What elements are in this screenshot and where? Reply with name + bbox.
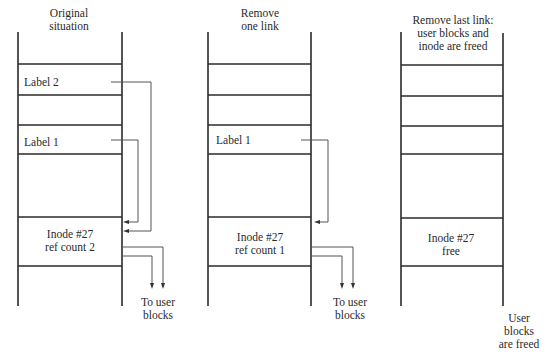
panel-remove-last-link: Remove last link: user blocks and inode … bbox=[401, 14, 540, 350]
block-pointer-arrow bbox=[122, 256, 152, 284]
panel-2-footer-line-1: To user bbox=[333, 296, 367, 308]
panel-1-footer-line-1: To user bbox=[141, 296, 175, 308]
link-arrow-label-2-to-inode bbox=[111, 82, 151, 231]
panel-2-footer-line-2: blocks bbox=[335, 309, 366, 321]
panel-remove-one-link: Remove one link Label 1 Inode #27 ref co… bbox=[208, 7, 367, 321]
panel-2-heading-line-1: Remove bbox=[241, 7, 279, 19]
arrowhead-icon bbox=[123, 220, 129, 224]
link-arrow-label-1-to-inode bbox=[301, 140, 328, 222]
arrowhead-icon bbox=[340, 283, 344, 289]
panel-3-footer-line-1: User bbox=[508, 312, 530, 324]
inode-27-title: Inode #27 bbox=[428, 232, 475, 244]
block-pointer-arrow bbox=[311, 256, 342, 284]
panel-1-heading-line-1: Original bbox=[50, 7, 88, 20]
inode-27-ref-count: ref count 1 bbox=[235, 244, 285, 256]
inode-27-ref-count: ref count 2 bbox=[45, 241, 95, 253]
arrowhead-icon bbox=[123, 229, 129, 233]
directory-entry-label-2: Label 2 bbox=[24, 76, 59, 88]
panel-3-footer-line-3: are freed bbox=[499, 338, 540, 350]
panel-3-heading-line-1: Remove last link: bbox=[412, 14, 493, 26]
panel-3-heading-line-2: user blocks and bbox=[417, 27, 489, 39]
arrowhead-icon bbox=[150, 283, 154, 289]
link-removal-diagram: Original situation Label 2 Label 1 Inode… bbox=[0, 0, 549, 361]
directory-entry-label-1: Label 1 bbox=[216, 134, 251, 146]
panel-3-heading-line-3: inode are freed bbox=[419, 40, 488, 52]
arrowhead-icon bbox=[351, 283, 355, 289]
link-arrow-label-1-to-inode bbox=[111, 140, 138, 222]
arrowhead-icon bbox=[161, 283, 165, 289]
panel-3-footer-line-2: blocks bbox=[504, 325, 535, 337]
directory-entry-label-1: Label 1 bbox=[24, 136, 59, 148]
arrowhead-icon bbox=[314, 220, 320, 224]
panel-1-footer-line-2: blocks bbox=[143, 309, 174, 321]
inode-27-status: free bbox=[442, 245, 460, 257]
panel-original-situation: Original situation Label 2 Label 1 Inode… bbox=[18, 7, 175, 321]
block-pointer-arrow bbox=[311, 247, 353, 284]
panel-2-heading-line-2: one link bbox=[241, 20, 279, 32]
inode-27-title: Inode #27 bbox=[47, 228, 94, 240]
panel-1-heading-line-2: situation bbox=[49, 20, 89, 32]
block-pointer-arrow bbox=[122, 247, 163, 284]
inode-27-title: Inode #27 bbox=[237, 231, 284, 243]
